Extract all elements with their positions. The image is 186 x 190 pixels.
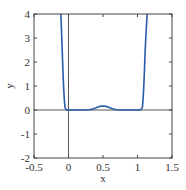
y-tick-label: 3 [25, 32, 31, 44]
y-tick-label: -1 [21, 128, 30, 140]
y-tick-label: 0 [25, 104, 31, 116]
y-tick-label: 1 [25, 80, 31, 92]
y-tick-label: -2 [21, 152, 30, 164]
x-tick-label: 1.5 [165, 161, 179, 173]
line-chart: -0.500.511.5 -2-101234 x y [0, 0, 186, 190]
y-tick-label: 4 [25, 8, 31, 20]
y-tick-label: 2 [25, 56, 31, 68]
x-axis-label: x [100, 172, 106, 184]
plot-area [34, 14, 172, 158]
y-axis-label: y [3, 83, 15, 89]
x-tick-label: 0 [66, 161, 72, 173]
x-tick-label: 1 [135, 161, 141, 173]
